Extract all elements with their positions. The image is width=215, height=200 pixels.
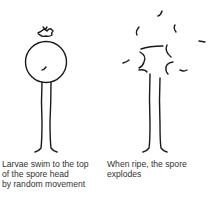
burst-arc-top	[141, 46, 163, 49]
spore-fragment	[158, 11, 162, 16]
burst-arc-left	[139, 52, 145, 68]
stalk-left-edge	[35, 82, 42, 152]
exploding-spore-illustration	[123, 11, 205, 152]
spore-fragment	[123, 60, 129, 63]
spore-fragment	[174, 25, 176, 32]
caption-spore-explodes: When ripe, the spore explodes	[107, 159, 207, 179]
caption-larvae-swim: Larvae swim to the top of the spore head…	[2, 159, 102, 189]
spore-fragment	[136, 27, 139, 35]
spore-head-circle	[26, 42, 67, 83]
burst-arc-bottom-left	[139, 70, 147, 72]
stalk-right-edge	[50, 82, 57, 152]
larvae-cluster-icon	[38, 27, 53, 36]
spore-fragment	[180, 70, 187, 71]
burst-arc-right-bottom	[166, 62, 173, 74]
spore-head-illustration	[26, 27, 67, 152]
stalk-left-edge	[143, 74, 150, 152]
burst-arc-right-top	[166, 45, 171, 57]
spore-head-mark	[42, 67, 46, 70]
spore-fragment	[199, 41, 205, 42]
stalk-right-edge	[160, 78, 168, 152]
